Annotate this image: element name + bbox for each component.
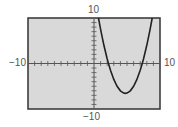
x-min-label: −10 — [9, 58, 26, 68]
graphing-calculator-plot — [0, 0, 178, 127]
y-max-label: 10 — [88, 5, 99, 15]
y-min-label: −10 — [83, 112, 100, 122]
x-max-label: 10 — [164, 58, 175, 68]
